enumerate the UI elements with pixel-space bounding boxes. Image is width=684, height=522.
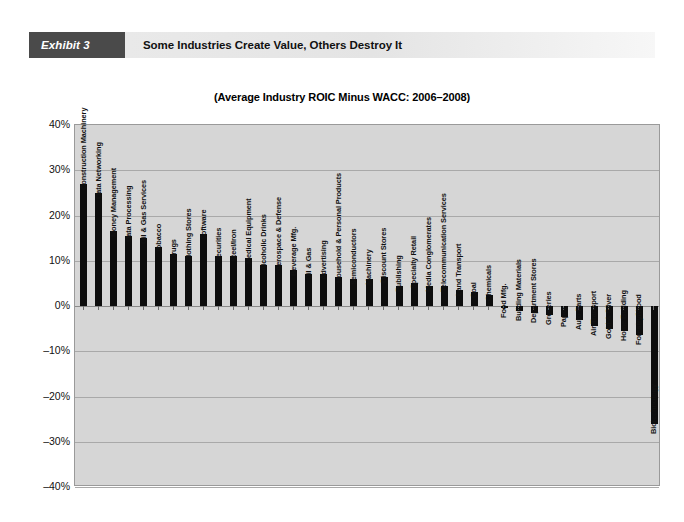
bar-category-label: Aerospace & Defense — [275, 197, 283, 271]
bar — [215, 256, 222, 306]
axis-tick — [458, 306, 459, 310]
bar-category-label: Gold & Silver — [605, 294, 613, 339]
bar-category-label: Software — [200, 209, 208, 239]
axis-tick — [218, 306, 219, 310]
exhibit-header: Exhibit 3 Some Industries Create Value, … — [29, 32, 655, 58]
bar-category-label: Alcoholic Drinks — [260, 215, 268, 272]
axis-tick — [653, 306, 654, 310]
gridline — [75, 487, 659, 488]
bar-category-label: Money Management — [110, 168, 118, 237]
y-axis-tick-label: 40% — [28, 118, 70, 130]
y-axis-tick-label: 30% — [28, 163, 70, 175]
bar-category-label: Clothing Stores — [185, 209, 193, 263]
bar-category-label: Oil & Gas Services — [140, 180, 148, 244]
bar-category-label: Oil & Gas — [305, 248, 313, 280]
bar — [170, 254, 177, 306]
bar — [80, 184, 87, 306]
bar — [95, 193, 102, 306]
axis-tick — [83, 306, 84, 310]
bar-category-label: Food Mfg. — [500, 284, 508, 318]
bar-category-label: Data Processing — [125, 185, 133, 241]
axis-tick — [413, 306, 414, 310]
bar — [140, 238, 147, 306]
bar-category-label: Data Networking — [95, 142, 103, 199]
bar — [110, 231, 117, 306]
axis-tick — [428, 306, 429, 310]
bar-category-label: Land Transport — [455, 244, 463, 296]
bar-category-label: Department Stores — [530, 258, 538, 322]
axis-tick — [203, 306, 204, 310]
bar-category-label: Auto Parts — [575, 293, 583, 329]
axis-tick — [173, 306, 174, 310]
bar-category-label: Steel/Iron — [230, 230, 238, 263]
bar-category-label: Coal — [470, 283, 478, 299]
bar-category-label: Advertising — [320, 241, 328, 281]
axis-tick — [353, 306, 354, 310]
axis-tick — [368, 306, 369, 310]
y-axis-tick-label: –40% — [28, 480, 70, 492]
axis-tick — [338, 306, 339, 310]
axis-tick — [113, 306, 114, 310]
bar-category-label: Paper — [560, 307, 568, 327]
y-axis-tick-label: –20% — [28, 390, 70, 402]
axis-tick — [143, 306, 144, 310]
y-axis-tick-label: –10% — [28, 344, 70, 356]
plot-area: Construction MachineryData NetworkingMon… — [74, 124, 660, 486]
bar — [185, 256, 192, 306]
y-axis: 40%30%20%10%0%–10%–20%–30%–40% — [20, 124, 70, 486]
bar-category-label: Air Transport — [590, 291, 598, 336]
y-axis-tick-label: –30% — [28, 435, 70, 447]
bar-category-label: Biotechnology — [650, 384, 658, 434]
bar-category-label: Tobacco — [155, 224, 163, 253]
bar-category-label: Home Building — [620, 290, 628, 341]
chart-area: (Average Industry ROIC Minus WACC: 2006–… — [0, 78, 684, 508]
bar-category-label: Beverage Mfg. — [290, 227, 298, 276]
axis-tick — [293, 306, 294, 310]
bar-category-label: Building Materials — [515, 259, 523, 321]
bar — [275, 265, 282, 306]
axis-tick — [248, 306, 249, 310]
axis-tick — [443, 306, 444, 310]
bar — [245, 258, 252, 306]
bar-category-label: Drugs — [170, 239, 178, 260]
axis-tick — [383, 306, 384, 310]
axis-tick — [308, 306, 309, 310]
y-axis-tick-label: 10% — [28, 254, 70, 266]
bar — [230, 256, 237, 306]
bar-category-label: Media Conglomerates — [425, 217, 433, 292]
bar-category-label: Telecommunication Services — [440, 193, 448, 292]
bar — [200, 234, 207, 306]
bar-category-label: Construction Machinery — [80, 107, 88, 189]
bar-category-label: Groceries — [545, 291, 553, 325]
y-axis-tick-label: 0% — [28, 299, 70, 311]
exhibit-title: Some Industries Create Value, Others Des… — [125, 32, 655, 58]
bar-category-label: Chemicals — [485, 265, 493, 301]
y-axis-tick-label: 20% — [28, 209, 70, 221]
bar — [155, 247, 162, 306]
axis-tick — [323, 306, 324, 310]
axis-tick — [188, 306, 189, 310]
chart-title: (Average Industry ROIC Minus WACC: 2006–… — [0, 91, 684, 103]
axis-tick — [398, 306, 399, 310]
bar — [125, 236, 132, 306]
bar-category-label: Securities — [215, 228, 223, 262]
bar-category-label: Medical Equipment — [245, 199, 253, 265]
axis-tick — [473, 306, 474, 310]
exhibit-tag-label: Exhibit 3 — [29, 32, 125, 58]
bar-series: Construction MachineryData NetworkingMon… — [75, 125, 659, 485]
bar-category-label: Publishing — [395, 255, 403, 292]
axis-tick — [488, 306, 489, 310]
bar-category-label: Forestry/Wood — [635, 295, 643, 346]
bar-category-label: Specialty Retail — [410, 236, 418, 289]
axis-tick — [128, 306, 129, 310]
bar-category-label: Household & Personal Products — [335, 173, 343, 283]
axis-tick — [158, 306, 159, 310]
bar — [260, 265, 267, 306]
axis-tick — [233, 306, 234, 310]
bar-category-label: Discount Stores — [380, 227, 388, 282]
axis-tick — [278, 306, 279, 310]
bar-category-label: Machinery — [365, 249, 373, 285]
axis-tick — [98, 306, 99, 310]
bar-category-label: Semiconductors — [350, 228, 358, 285]
axis-tick — [263, 306, 264, 310]
